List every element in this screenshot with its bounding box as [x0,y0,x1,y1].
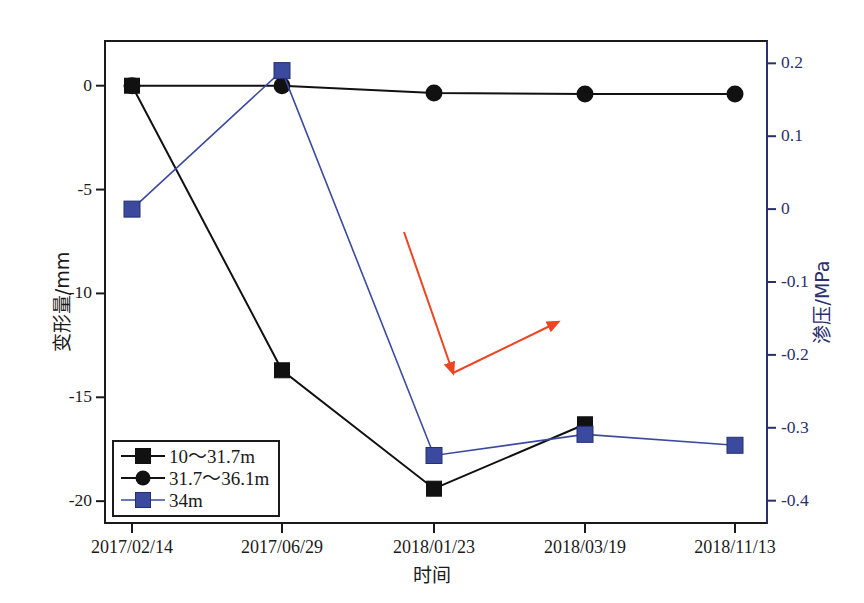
left-axis-ticks [96,86,104,501]
legend-label: 31.7～36.1m [169,469,269,488]
left-tick-label: -15 [0,389,92,407]
legend-circle-icon [120,468,166,488]
right-axis-title: 渗压/MPa [807,260,834,343]
right-axis-ticks [768,63,776,500]
chart-root: 0-5-10-15-20 0.20.10-0.1-0.2-0.3-0.4 201… [0,0,864,603]
legend: 10～31.7m31.7～36.1m34m [112,440,280,517]
x-tick-label: 2018/11/13 [694,538,775,556]
left-tick-label: -5 [0,181,92,199]
legend-item: 31.7～36.1m [120,467,269,489]
legend-square-icon [120,446,166,466]
x-tick-label: 2017/06/29 [241,538,323,556]
x-tick-label: 2017/02/14 [91,538,173,556]
x-axis-ticks [132,524,735,533]
left-axis-title: 变形量/mm [47,251,74,351]
right-tick-label: 0.1 [781,127,803,145]
legend-item: 10～31.7m [120,445,269,467]
legend-square-icon [120,490,166,510]
right-tick-label: -0.1 [781,273,809,291]
right-tick-label: -0.4 [781,492,809,510]
right-tick-label: 0.2 [781,55,803,73]
legend-item: 34m [120,489,269,511]
right-tick-label: -0.3 [781,419,809,437]
x-tick-label: 2018/01/23 [393,538,475,556]
right-tick-label: 0 [781,200,790,218]
left-tick-label: -20 [0,492,92,510]
legend-label: 10～31.7m [169,447,255,466]
right-tick-label: -0.2 [781,346,809,364]
legend-label: 34m [169,491,203,510]
x-axis-title: 时间 [413,560,451,587]
left-tick-label: 0 [0,77,92,95]
x-tick-label: 2018/03/19 [544,538,626,556]
